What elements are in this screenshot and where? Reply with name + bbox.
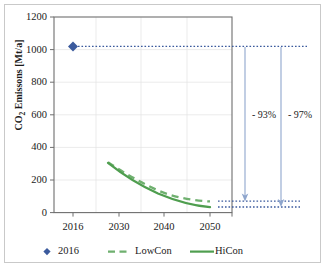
legend-label-lowcon: LowCon [135,245,172,256]
y-tick-label-400: 400 [17,141,47,152]
x-tick-label-2030: 2030 [99,221,139,232]
x-tick-label-2040: 2040 [144,221,184,232]
legend-label-2016: 2016 [58,245,79,256]
y-tick-marks [50,17,54,213]
legend-label-hicon: HiCon [215,245,243,256]
y-tick-label-800: 800 [17,76,47,87]
series-lowcon-line [108,162,210,201]
annotation-label-93: - 93% [252,109,276,120]
series-hicon-line [108,163,210,207]
annotation-arrow-93 [242,47,249,202]
y-tick-label-1200: 1200 [17,11,47,22]
x-tick-label-2016: 2016 [53,221,93,232]
annotation-label-97: - 97% [288,109,312,120]
y-tick-label-600: 600 [17,109,47,120]
y-tick-label-1000: 1000 [17,44,47,55]
y-tick-label-200: 200 [17,174,47,185]
legend-marker-2016 [43,248,50,255]
y-tick-label-0: 0 [17,207,47,218]
x-tick-label-2050: 2050 [190,221,230,232]
x-tick-marks [73,213,232,217]
annotation-arrow-97 [278,47,285,207]
